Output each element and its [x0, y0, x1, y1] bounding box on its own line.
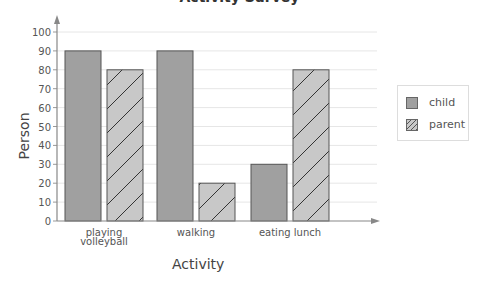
bar-parent-1: [199, 183, 235, 221]
x-tick-label: eating lunch: [259, 227, 321, 238]
y-axis-ticks: 0102030405060708090100: [32, 27, 57, 227]
y-tick-label: 50: [38, 122, 51, 133]
y-tick-label: 30: [38, 159, 51, 170]
bar-child-0: [65, 51, 101, 221]
y-tick-label: 20: [38, 178, 51, 189]
y-tick-label: 100: [32, 27, 51, 38]
y-tick-label: 0: [45, 216, 51, 227]
bar-chart-plot: 0102030405060708090100 playingvolleyball…: [0, 0, 479, 286]
y-tick-label: 90: [38, 46, 51, 57]
bar-child-2: [251, 164, 287, 221]
legend: child parent: [397, 85, 469, 141]
x-axis-arrow-icon: [371, 218, 380, 224]
y-tick-label: 80: [38, 65, 51, 76]
bar-child-1: [157, 51, 193, 221]
bar-parent-0: [107, 70, 143, 221]
y-tick-label: 40: [38, 140, 51, 151]
x-axis-ticks: playingvolleyballwalkingeating lunch: [80, 227, 321, 247]
y-tick-label: 70: [38, 84, 51, 95]
y-tick-label: 10: [38, 197, 51, 208]
parent-hatch-swatch-icon: [406, 119, 418, 131]
legend-item-child: child: [406, 96, 455, 109]
child-swatch-icon: [406, 97, 418, 109]
y-axis-label: Person: [16, 106, 32, 166]
legend-label: child: [429, 96, 455, 109]
y-axis-arrow-icon: [54, 15, 60, 24]
x-axis-label: Activity: [172, 256, 224, 272]
x-tick-label: volleyball: [80, 236, 128, 247]
y-tick-label: 60: [38, 103, 51, 114]
bar-parent-2: [293, 70, 329, 221]
legend-label: parent: [429, 118, 465, 131]
bars: [65, 51, 329, 221]
legend-item-parent: parent: [406, 118, 465, 131]
x-tick-label: walking: [177, 227, 215, 238]
